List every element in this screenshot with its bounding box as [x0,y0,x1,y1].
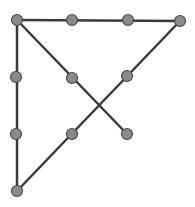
dot-n-bot-mid [67,129,78,140]
dot-n-top-ext [175,16,186,27]
dot-n-bot-right [122,129,133,140]
dot-n-top-mid [67,15,78,26]
nine-dots-diagram [0,0,195,207]
dot-n-mid-left [11,72,22,83]
dot-n-mid-right [122,71,133,82]
dot-n-top-left [12,15,23,26]
dot-n-top-right [123,15,134,26]
dot-n-center [67,73,78,84]
dot-n-bot-left [11,129,22,140]
dot-n-bottom-ext [12,186,23,197]
seg-top [17,20,180,21]
